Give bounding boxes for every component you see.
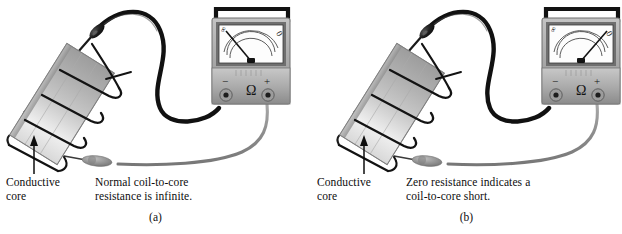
core-caption-a: Conductive core [6,176,60,203]
black-test-lead-cable [97,12,219,122]
gray-test-lead-cable [448,104,597,165]
black-test-lead-cable [427,12,549,122]
note-caption-a-line2: resistance is infinite. [95,190,192,204]
gray-probe [64,154,112,167]
core-caption-a-line2: core [6,190,60,204]
terminal-label-ohm: Ω [576,83,586,98]
analog-ohmmeter: ∞ 0 − [212,9,290,104]
panel-b: ∞ 0 − Ω [311,0,622,234]
note-caption-b-line1: Zero resistance indicates a [406,176,530,190]
core-caption-a-line1: Conductive [6,176,60,190]
note-caption-a-line1: Normal coil-to-core [95,176,192,190]
conductive-core-assembly [8,43,131,171]
panel-letter-a: (a) [0,211,311,223]
panel-letter-b: (b) [311,211,622,223]
terminal-label-negative: − [552,75,558,87]
analog-ohmmeter: ∞ 0 − Ω [542,9,620,104]
gray-test-lead-cable [118,104,267,165]
core-caption-b-line2: core [317,190,371,204]
panel-a: ∞ 0 − [0,0,311,234]
core-caption-b-line1: Conductive [317,176,371,190]
black-probe [408,21,437,52]
conductive-core-assembly [338,43,461,171]
core-caption-b: Conductive core [317,176,371,203]
terminal-label-positive: + [264,75,270,87]
ohmmeter-coil-test-figure: ∞ 0 − [0,0,622,234]
terminal-label-negative: − [222,75,228,87]
needle-pivot [247,58,255,63]
note-caption-a: Normal coil-to-core resistance is infini… [95,176,192,203]
needle-pivot [577,58,585,63]
note-caption-b: Zero resistance indicates a coil-to-core… [406,176,530,203]
note-caption-b-line2: coil-to-core short. [406,190,530,204]
terminal-label-ohm: Ω [246,83,256,98]
black-probe [78,21,107,52]
terminal-label-positive: + [594,75,600,87]
gray-probe [394,154,442,167]
